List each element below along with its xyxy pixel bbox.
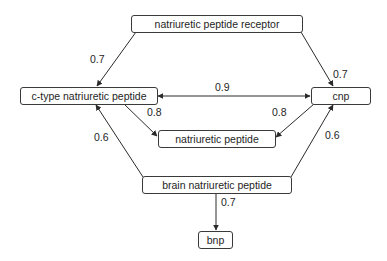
edge-npr-to-cnp [301, 32, 333, 86]
node-natriuretic-peptide-receptor[interactable]: natriuretic peptide receptor [131, 15, 303, 33]
node-brain-natriuretic-peptide[interactable]: brain natriuretic peptide [142, 176, 292, 194]
node-label: c-type natriuretic peptide [32, 90, 147, 102]
edge-bnpfull-to-cnp [291, 105, 333, 177]
node-label: natriuretic peptide receptor [155, 18, 280, 30]
node-label: natriuretic peptide [175, 133, 258, 145]
edge-label-npr-ctnp: 0.7 [90, 53, 105, 65]
edge-label-bnpfull-cnp: 0.6 [325, 129, 340, 141]
edge-label-cnp-np: 0.8 [272, 106, 287, 118]
node-c-type-natriuretic-peptide[interactable]: c-type natriuretic peptide [20, 87, 158, 105]
diagram-canvas: natriuretic peptide receptor c-type natr… [0, 0, 387, 261]
edge-label-npr-cnp: 0.7 [333, 68, 348, 80]
edge-label-bnpfull-ctnp: 0.6 [94, 131, 109, 143]
node-bnp[interactable]: bnp [198, 231, 233, 249]
node-label: brain natriuretic peptide [162, 179, 272, 191]
edge-label-ctnp-cnp: 0.9 [215, 81, 230, 93]
edge-label-ctnp-np: 0.8 [147, 106, 162, 118]
node-natriuretic-peptide[interactable]: natriuretic peptide [158, 130, 276, 148]
node-cnp[interactable]: cnp [311, 87, 371, 105]
node-label: cnp [333, 90, 350, 102]
edge-label-bnpfull-bnp: 0.7 [221, 196, 236, 208]
node-label: bnp [207, 234, 225, 246]
